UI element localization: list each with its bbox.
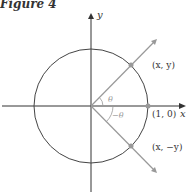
- angle-arc-theta: [100, 98, 104, 107]
- point-lower: [129, 144, 134, 149]
- point-axis-label: (1, 0): [152, 109, 176, 119]
- point-upper-label: (x, y): [152, 60, 175, 70]
- angle-neg-theta-label: −θ: [112, 111, 124, 120]
- point-axis: [146, 104, 151, 109]
- unit-circle-diagram: y x (x, y) (1, 0) (x, −y) θ −θ: [0, 0, 191, 194]
- y-axis-label: y: [96, 9, 103, 20]
- point-upper: [129, 63, 134, 68]
- ray-theta: [91, 41, 155, 106]
- angle-theta-label: θ: [108, 95, 113, 104]
- x-axis-label: x: [180, 108, 186, 119]
- y-axis-arrow-icon: [88, 13, 94, 19]
- point-lower-label: (x, −y): [152, 142, 182, 152]
